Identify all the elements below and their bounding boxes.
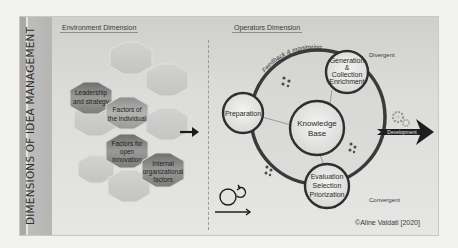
svg-text:innovation: innovation xyxy=(112,156,142,163)
svg-text:Base: Base xyxy=(308,129,327,138)
stage-evaluation-selection-priorization: Evaluation Selection Priorization xyxy=(305,164,349,208)
svg-text:Leadership: Leadership xyxy=(75,89,108,97)
iteration-loop-icon xyxy=(215,185,250,215)
svg-text:Priorization: Priorization xyxy=(309,191,344,198)
hexagon-factors-individual: Factors of the individual xyxy=(106,97,148,129)
divergent-label: Divergent xyxy=(369,52,395,58)
svg-text:and strategy: and strategy xyxy=(73,98,110,106)
hexagon-internal-organizational: Internal organizational factors xyxy=(142,153,184,187)
stage-knowledge-base: Knowledge Base xyxy=(290,101,344,155)
svg-text:Development: Development xyxy=(387,129,417,135)
svg-text:the individual: the individual xyxy=(108,115,146,122)
svg-text:organizational: organizational xyxy=(143,168,184,176)
convergent-label: Convergent xyxy=(369,197,400,203)
svg-text:Evaluation: Evaluation xyxy=(311,173,344,180)
diagram-canvas: Leadership and strategy Factors of the i… xyxy=(0,0,458,248)
svg-text:Factors of: Factors of xyxy=(113,106,142,113)
svg-text:open: open xyxy=(120,148,135,156)
svg-text:&: & xyxy=(345,64,350,71)
copyright-credit: ©Aline Valdati [2020] xyxy=(355,219,420,226)
svg-text:factors: factors xyxy=(153,176,173,183)
svg-text:Enrichment: Enrichment xyxy=(329,78,364,85)
svg-text:Knowledge: Knowledge xyxy=(297,119,337,128)
svg-text:Selection: Selection xyxy=(313,182,342,189)
svg-text:Factors for: Factors for xyxy=(111,140,143,147)
stage-generation-collection-enrichment: Generation & Collection Enrichment xyxy=(326,51,368,93)
svg-text:Internal: Internal xyxy=(152,160,174,167)
svg-text:Preparation: Preparation xyxy=(225,110,261,118)
svg-text:Collection: Collection xyxy=(332,71,363,78)
stage-preparation: Preparation xyxy=(223,93,263,133)
svg-text:Generation: Generation xyxy=(330,57,365,64)
gears-icon xyxy=(393,112,409,126)
